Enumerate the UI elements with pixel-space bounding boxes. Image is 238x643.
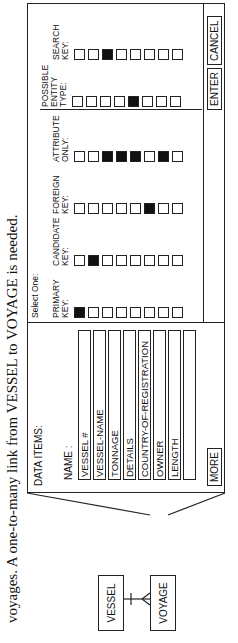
- checkbox[interactable]: [130, 307, 141, 318]
- checkbox[interactable]: [128, 96, 139, 107]
- column-header-line: KEY:: [61, 166, 70, 214]
- column-header-line: TYPE:: [59, 59, 68, 107]
- checkbox[interactable]: [116, 307, 127, 318]
- checkbox[interactable]: [88, 151, 99, 162]
- column-header: FOREIGNKEY:: [42, 166, 70, 214]
- checkbox[interactable]: [72, 96, 83, 107]
- column-3: ATTRIBUTEONLY:: [42, 114, 186, 162]
- checkbox[interactable]: [74, 307, 85, 318]
- column-header-line: KEY:: [61, 12, 70, 60]
- checkbox[interactable]: [172, 255, 183, 266]
- checkbox[interactable]: [102, 151, 113, 162]
- checkbox[interactable]: [158, 203, 169, 214]
- checkbox[interactable]: [102, 307, 113, 318]
- checkbox[interactable]: [158, 49, 169, 60]
- name-field[interactable]: VESSEL-NAME: [93, 330, 106, 480]
- checkbox[interactable]: [172, 151, 183, 162]
- checkbox[interactable]: [74, 49, 85, 60]
- checkbox[interactable]: [74, 255, 85, 266]
- checkbox[interactable]: [88, 307, 99, 318]
- column-header: CANDIDATEKEY:: [42, 218, 70, 266]
- checkbox[interactable]: [88, 203, 99, 214]
- name-field[interactable]: [183, 330, 196, 480]
- column-4: POSSIBLEENTITYTYPE:: [40, 59, 202, 110]
- figure-caption: voyages. A one-to-many link from VESSEL …: [2, 3, 22, 623]
- column-0: PRIMARYKEY:: [42, 270, 186, 318]
- checkbox[interactable]: [116, 49, 127, 60]
- checkbox-list: [74, 218, 183, 266]
- checkbox[interactable]: [144, 307, 155, 318]
- more-button[interactable]: MORE: [207, 448, 222, 486]
- name-field[interactable]: OWNER: [153, 330, 166, 480]
- column-5: SEARCHKEY:: [42, 12, 186, 60]
- checkbox[interactable]: [144, 49, 155, 60]
- checkbox-list: [74, 166, 183, 214]
- entity-vessel: VESSEL: [98, 575, 124, 631]
- data-items-title: DATA ITEMS:: [33, 425, 44, 486]
- checkbox[interactable]: [144, 151, 155, 162]
- cancel-button[interactable]: CANCEL: [207, 16, 222, 65]
- checkbox-list: [72, 59, 181, 107]
- checkbox[interactable]: [116, 151, 127, 162]
- column-1: CANDIDATEKEY:: [42, 218, 186, 266]
- checkbox[interactable]: [156, 96, 167, 107]
- checkbox[interactable]: [88, 255, 99, 266]
- select-one-label: Select One:: [30, 274, 40, 318]
- checkbox[interactable]: [130, 49, 141, 60]
- data-items-pane: DATA ITEMS: NAME : VESSEL # VESSEL-NAME …: [28, 322, 224, 492]
- column-header: SEARCHKEY:: [42, 12, 70, 60]
- checkbox[interactable]: [86, 96, 97, 107]
- checkbox-list: [74, 270, 183, 318]
- checkbox[interactable]: [172, 307, 183, 318]
- checkbox-list: [74, 12, 183, 60]
- column-header-line: ONLY:: [61, 114, 70, 162]
- checkbox[interactable]: [172, 203, 183, 214]
- checkbox[interactable]: [170, 96, 181, 107]
- checkbox[interactable]: [158, 307, 169, 318]
- checkbox[interactable]: [116, 203, 127, 214]
- checkbox[interactable]: [102, 203, 113, 214]
- checkbox[interactable]: [74, 151, 85, 162]
- name-field[interactable]: TONNAGE: [108, 330, 121, 480]
- column-header-line: KEY:: [61, 218, 70, 266]
- checkbox[interactable]: [158, 151, 169, 162]
- checkbox[interactable]: [130, 255, 141, 266]
- checkbox[interactable]: [144, 203, 155, 214]
- data-items-dialog: DATA ITEMS: NAME : VESSEL # VESSEL-NAME …: [27, 3, 225, 493]
- checkbox[interactable]: [114, 96, 125, 107]
- checkbox[interactable]: [144, 255, 155, 266]
- checkbox[interactable]: [172, 49, 183, 60]
- checkbox[interactable]: [130, 151, 141, 162]
- name-field[interactable]: DETAILS: [123, 330, 136, 480]
- checkbox[interactable]: [74, 203, 85, 214]
- entity-voyage: VOYAGE: [150, 575, 176, 631]
- name-list: VESSEL # VESSEL-NAME TONNAGE DETAILS COU…: [78, 330, 198, 480]
- enter-button[interactable]: ENTER: [207, 68, 222, 110]
- rotated-figure: voyages. A one-to-many link from VESSEL …: [0, 0, 238, 643]
- column-header-line: KEY:: [61, 270, 70, 318]
- name-label: NAME :: [63, 446, 74, 480]
- checkbox[interactable]: [130, 203, 141, 214]
- checkbox[interactable]: [100, 96, 111, 107]
- name-field[interactable]: VESSEL #: [78, 330, 91, 480]
- name-field[interactable]: COUNTRY-OF-REGISTRATION: [138, 330, 151, 480]
- checkbox[interactable]: [88, 49, 99, 60]
- checkbox[interactable]: [142, 96, 153, 107]
- checkbox[interactable]: [102, 49, 113, 60]
- column-header: ATTRIBUTEONLY:: [42, 114, 70, 162]
- column-2: FOREIGNKEY:: [42, 166, 186, 214]
- checkbox-list: [74, 114, 183, 162]
- select-area: Select One: PRIMARYKEY:CANDIDATEKEY:FORE…: [28, 4, 204, 322]
- name-field[interactable]: LENGTH: [168, 330, 181, 480]
- checkbox[interactable]: [102, 255, 113, 266]
- checkbox[interactable]: [116, 255, 127, 266]
- column-header: POSSIBLEENTITYTYPE:: [40, 59, 68, 107]
- checkbox[interactable]: [158, 255, 169, 266]
- select-pane: Select One: PRIMARYKEY:CANDIDATEKEY:FORE…: [28, 4, 224, 322]
- column-header: PRIMARYKEY:: [42, 270, 70, 318]
